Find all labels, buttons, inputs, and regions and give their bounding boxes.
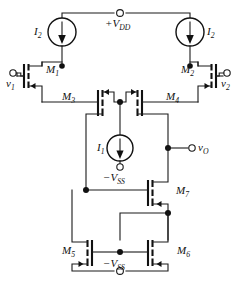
v1-terminal[interactable]: [10, 70, 16, 76]
circuit-diagram: +VDD I2 I2 v1 v2 M1 M2 M3 M4 I1 vO −VSS …: [0, 0, 240, 288]
i2-right-source[interactable]: [176, 18, 204, 46]
vdd-label: +VDD: [105, 18, 130, 32]
i1-source[interactable]: [107, 135, 133, 161]
transistor-m2[interactable]: [190, 62, 223, 102]
v2-label: v2: [221, 78, 230, 92]
i2-left-source[interactable]: [48, 18, 76, 46]
node-m7-gate-left: [83, 187, 89, 193]
i1-label: I1: [97, 142, 105, 156]
node-i2-left-drain: [59, 63, 65, 69]
mirror-gate-feed: [120, 213, 168, 240]
m3-label: M3: [62, 91, 75, 105]
v2-terminal[interactable]: [224, 70, 230, 76]
i2-left-label: I2: [34, 26, 42, 40]
m2-label: M2: [181, 64, 194, 78]
transistor-m6[interactable]: [120, 213, 168, 271]
vss-bottom-label: −VSS: [103, 258, 125, 272]
m6-label: M6: [177, 245, 190, 259]
vo-terminal[interactable]: [189, 145, 195, 151]
v1-label: v1: [6, 78, 15, 92]
m5-label: M5: [62, 245, 75, 259]
vss-mid-label: −VSS: [103, 172, 125, 186]
vss-mid-terminal[interactable]: [117, 164, 123, 170]
vo-label: vO: [198, 142, 208, 156]
m7-label: M7: [176, 185, 189, 199]
i2-right-label: I2: [207, 26, 215, 40]
m4-label: M4: [166, 91, 179, 105]
m1-label: M1: [46, 64, 59, 78]
node-mirror-gate: [117, 249, 123, 255]
vdd-terminal[interactable]: [117, 10, 124, 17]
transistor-m4[interactable]: [120, 89, 198, 148]
